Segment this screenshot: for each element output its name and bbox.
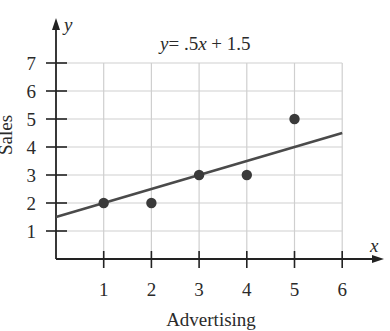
data-point	[289, 114, 299, 124]
y-tick-label: 4	[27, 137, 37, 158]
x-tick-label: 6	[337, 279, 347, 300]
y-axis-label: Sales	[0, 115, 16, 155]
x-axis-arrow-icon	[372, 255, 384, 263]
chart-title: y= .5x + 1.5	[158, 33, 251, 54]
y-axis-arrow-icon	[52, 18, 60, 30]
x-axis-label: Advertising	[166, 309, 256, 330]
y-axis-symbol: y	[62, 14, 73, 35]
data-point	[146, 198, 156, 208]
tick-labels: 1234561234567	[27, 53, 347, 300]
data-point	[99, 198, 109, 208]
x-tick-label: 1	[99, 279, 109, 300]
y-tick-label: 7	[27, 53, 37, 74]
y-tick-label: 1	[27, 221, 37, 242]
x-tick-label: 4	[242, 279, 252, 300]
y-tick-label: 5	[27, 109, 37, 130]
y-tick-label: 6	[27, 81, 37, 102]
axes	[52, 18, 384, 263]
scatter-chart: 1234561234567 y= .5x + 1.5 y x Advertisi…	[0, 0, 390, 331]
data-point	[194, 170, 204, 180]
y-tick-label: 3	[27, 165, 37, 186]
data-point	[242, 170, 252, 180]
grid-lines	[56, 63, 342, 259]
x-axis-symbol: x	[369, 235, 379, 256]
x-tick-label: 3	[194, 279, 204, 300]
y-tick-label: 2	[27, 193, 37, 214]
x-tick-label: 5	[290, 279, 300, 300]
x-tick-label: 2	[147, 279, 157, 300]
